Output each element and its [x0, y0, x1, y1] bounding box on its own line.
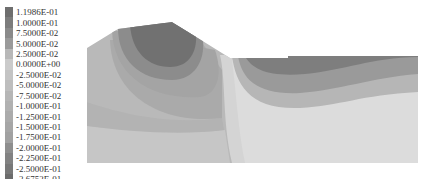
stress-contour-field: [80, 15, 425, 170]
contour-plot: [0, 0, 430, 179]
